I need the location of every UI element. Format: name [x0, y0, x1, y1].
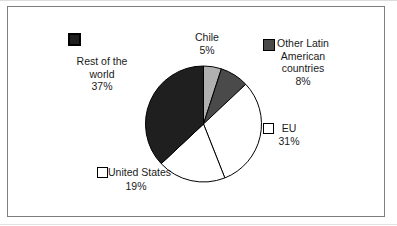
slice-label-rest-of-world: Rest of the world 37%	[60, 55, 144, 93]
slice-label-chile: Chile 5%	[184, 31, 230, 56]
slice-label-pct: 37%	[60, 80, 144, 93]
slice-label-text: Rest of the	[60, 55, 144, 68]
slice-label-united-states-pct: 19%	[97, 180, 175, 193]
slice-label-other-latin: Other Latin American countries 8%	[265, 37, 341, 87]
legend-swatch-united-states	[97, 167, 108, 178]
slice-label-pct: 8%	[265, 75, 341, 88]
legend-swatch-rest-of-world	[68, 33, 81, 46]
scan-artifact-bottom-line	[0, 224, 397, 225]
slice-label-text: Chile	[184, 31, 230, 44]
slice-label-eu: EU 31%	[270, 122, 308, 147]
slice-label-text: world	[60, 68, 144, 81]
slice-label-pct: 31%	[270, 135, 308, 148]
slice-label-pct: 5%	[184, 44, 230, 57]
slice-label-text: Other Latin	[265, 37, 341, 50]
slice-label-united-states: United States	[97, 166, 171, 179]
slice-label-text: countries	[265, 62, 341, 75]
slice-label-text: American	[265, 50, 341, 63]
slice-label-text: EU	[270, 122, 308, 135]
slice-label-text: United States	[108, 166, 171, 179]
